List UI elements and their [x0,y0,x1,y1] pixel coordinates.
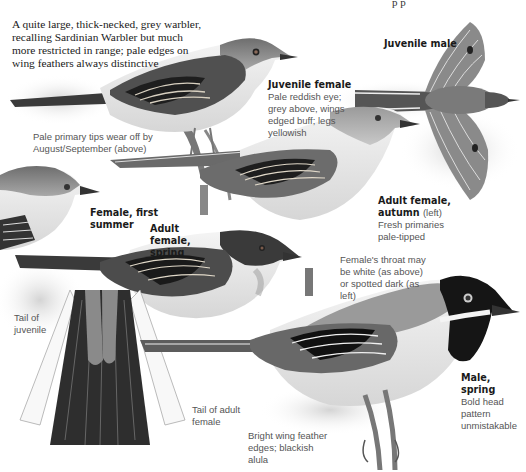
label-juvenile-male: Juvenile male [384,38,457,50]
note-pale-primary: Pale primary tips wear off by August/Sep… [33,131,158,155]
field-guide-page: p p A quite large, thick-necked, grey wa… [0,0,526,472]
label-juvenile-female: Juvenile female [268,79,358,91]
label-male-spring: Male, spring [461,372,523,396]
label-adult-female-spring: Adult female, spring [150,223,220,259]
note-wing-edges: Bright wing feather edges; blackish alul… [248,430,328,466]
annotation-juvenile-female: Juvenile female Pale reddish eye; grey a… [268,79,358,139]
annotation-male-spring: Male, spring Bold head pattern unmistaka… [461,372,523,432]
note-male-spring: Bold head pattern unmistakable [461,396,523,432]
note-female-throat: Female's throat may be white (as above) … [340,254,430,302]
note-tail-juvenile: Tail of juvenile [14,312,54,336]
bird-female-first-summer [0,166,100,250]
note-adult-female-autumn: Fresh primaries pale-tipped [378,219,458,243]
label-adult-female-autumn: Adult female, autumn (left) [378,195,458,219]
annotation-adult-female-autumn: Adult female, autumn (left) Fresh primar… [378,195,458,243]
cut-off-header: p p [392,0,406,8]
note-juvenile-female: Pale reddish eye; grey above, wings edge… [268,91,358,139]
species-description: A quite large, thick-necked, grey warble… [12,18,207,70]
note-tail-adult-female: Tail of adult female [192,404,257,428]
